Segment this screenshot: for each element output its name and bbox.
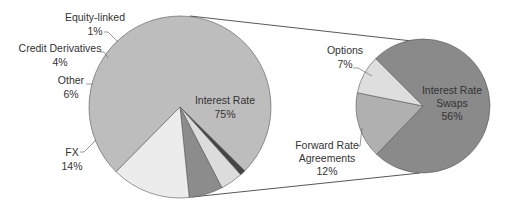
chart-canvas: Equity-linked 1% Credit Derivatives 4% O…	[0, 0, 510, 210]
label-options-name: Options	[327, 44, 363, 56]
leader-equity	[104, 32, 118, 42]
label-swaps-pct: 56%	[441, 110, 462, 122]
label-other-name: Other	[58, 74, 85, 86]
label-swaps-name-line1: Interest Rate	[422, 84, 482, 96]
label-fra-name-line2: Agreements	[299, 152, 356, 164]
leader-fx	[80, 140, 96, 152]
secondary-pie	[356, 39, 490, 173]
label-fx-pct: 14%	[61, 160, 82, 172]
label-interest-name: Interest Rate	[195, 94, 255, 106]
label-interest-pct: 75%	[214, 108, 235, 120]
label-equity-pct: 1%	[87, 25, 102, 37]
label-other-pct: 6%	[63, 88, 78, 100]
label-fx-name: FX	[65, 146, 78, 158]
label-swaps-name-line2: Swaps	[436, 97, 468, 109]
label-fra-pct: 12%	[316, 165, 337, 177]
label-fra-name-line1: Forward Rate	[295, 139, 359, 151]
label-equity-name: Equity-linked	[65, 11, 125, 23]
label-credit-pct: 4%	[52, 56, 67, 68]
primary-pie	[89, 16, 271, 198]
label-options-pct: 7%	[337, 58, 352, 70]
label-credit-name: Credit Derivatives	[19, 42, 102, 54]
pie-of-pie-chart: Equity-linked 1% Credit Derivatives 4% O…	[0, 0, 510, 210]
